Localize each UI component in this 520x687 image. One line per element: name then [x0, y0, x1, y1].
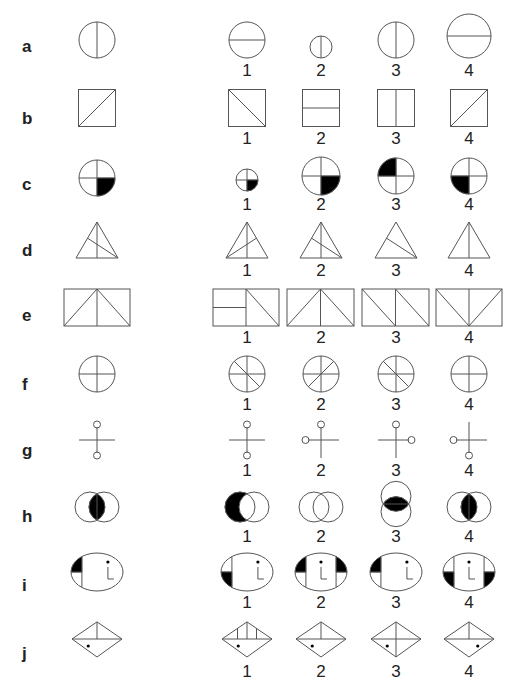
row-label: c: [22, 175, 31, 194]
option-number: 2: [316, 129, 325, 148]
option-number: 1: [242, 195, 251, 214]
option-i-2[interactable]: 2: [295, 553, 362, 612]
option-d-3[interactable]: 3: [375, 222, 417, 280]
puzzle-row-f: f1234: [22, 356, 487, 414]
stimulus-figure-a: [79, 22, 115, 58]
option-g-3[interactable]: 3: [378, 421, 415, 480]
option-number: 3: [391, 195, 400, 214]
option-b-2[interactable]: 2: [303, 90, 340, 149]
puzzle-row-d: d1234: [22, 222, 490, 280]
stimulus-figure-d: [76, 222, 118, 258]
option-b-1[interactable]: 1: [229, 90, 266, 149]
option-e-2[interactable]: 2: [287, 289, 354, 347]
option-number: 3: [391, 461, 400, 480]
option-c-4[interactable]: 4: [451, 158, 487, 214]
option-c-3[interactable]: 3: [378, 158, 414, 214]
option-g-1[interactable]: 1: [229, 421, 265, 480]
row-label: g: [22, 441, 32, 460]
option-number: 3: [391, 395, 400, 414]
option-h-1[interactable]: 1: [225, 492, 269, 546]
option-j-1[interactable]: 1: [222, 622, 272, 681]
option-a-2[interactable]: 2: [310, 36, 332, 80]
row-label: e: [22, 306, 31, 325]
option-number: 2: [316, 593, 325, 612]
option-f-4[interactable]: 4: [451, 356, 487, 414]
option-number: 4: [464, 461, 473, 480]
option-number: 4: [464, 61, 473, 80]
option-c-1[interactable]: 1: [236, 169, 258, 214]
row-label: d: [22, 241, 32, 260]
option-number: 1: [242, 328, 251, 347]
stimulus-figure-i: [71, 553, 123, 591]
option-number: 1: [242, 261, 251, 280]
option-number: 4: [464, 527, 473, 546]
row-label: h: [22, 507, 32, 526]
option-j-4[interactable]: 4: [444, 622, 494, 681]
option-b-3[interactable]: 3: [378, 90, 415, 149]
option-f-2[interactable]: 2: [303, 356, 339, 414]
option-number: 4: [464, 593, 473, 612]
stimulus-figure-b: [79, 90, 116, 127]
option-number: 3: [391, 328, 400, 347]
option-number: 1: [242, 395, 251, 414]
option-number: 1: [242, 61, 251, 80]
option-number: 3: [391, 61, 400, 80]
option-number: 2: [316, 61, 325, 80]
option-d-4[interactable]: 4: [448, 222, 490, 280]
option-e-4[interactable]: 4: [436, 289, 502, 347]
option-c-2[interactable]: 2: [302, 157, 340, 214]
puzzle-row-c: c1234: [22, 157, 487, 214]
option-number: 4: [464, 395, 473, 414]
option-e-1[interactable]: 1: [213, 289, 279, 347]
option-number: 1: [242, 662, 251, 681]
option-number: 3: [391, 593, 400, 612]
option-h-4[interactable]: 4: [447, 492, 491, 546]
puzzle-row-g: g1234: [22, 421, 487, 480]
option-number: 2: [316, 527, 325, 546]
option-g-4[interactable]: 4: [450, 422, 487, 480]
option-i-4[interactable]: 4: [443, 553, 510, 612]
option-number: 2: [316, 395, 325, 414]
option-number: 1: [242, 129, 251, 148]
option-i-3[interactable]: 3: [370, 553, 422, 612]
option-number: 4: [464, 662, 473, 681]
stimulus-figure-f: [79, 356, 115, 392]
option-number: 2: [316, 195, 325, 214]
option-f-1[interactable]: 1: [229, 356, 265, 414]
option-a-1[interactable]: 1: [229, 22, 265, 80]
puzzle-row-j: j1234: [21, 622, 494, 681]
option-h-2[interactable]: 2: [299, 492, 343, 546]
option-number: 3: [391, 261, 400, 280]
option-j-3[interactable]: 3: [371, 622, 421, 681]
option-j-2[interactable]: 2: [296, 622, 346, 681]
option-g-2[interactable]: 2: [302, 421, 339, 480]
option-number: 2: [316, 328, 325, 347]
option-number: 3: [391, 527, 400, 546]
option-d-2[interactable]: 2: [300, 222, 342, 280]
option-number: 2: [316, 261, 325, 280]
row-label: a: [22, 37, 32, 56]
stimulus-figure-g: [79, 421, 115, 459]
puzzle-row-h: h1234: [22, 481, 491, 546]
stimulus-figure-e: [64, 289, 130, 326]
puzzle-sheet: a1234b1234c1234d1234e1234f1234g1234h1234…: [0, 0, 520, 687]
option-number: 1: [242, 593, 251, 612]
option-b-4[interactable]: 4: [451, 90, 488, 149]
row-label: j: [21, 644, 27, 663]
option-a-4[interactable]: 4: [447, 14, 491, 80]
option-h-3[interactable]: 3: [381, 481, 411, 546]
puzzle-row-i: i1234: [22, 553, 510, 612]
option-i-1[interactable]: 1: [221, 553, 273, 612]
option-number: 4: [464, 328, 473, 347]
option-a-3[interactable]: 3: [378, 22, 414, 80]
option-number: 4: [464, 261, 473, 280]
option-f-3[interactable]: 3: [378, 356, 414, 414]
option-number: 3: [391, 129, 400, 148]
row-label: i: [22, 576, 27, 595]
option-e-3[interactable]: 3: [362, 289, 429, 347]
row-label: b: [22, 109, 32, 128]
option-number: 4: [464, 195, 473, 214]
stimulus-figure-h: [75, 492, 119, 522]
option-number: 2: [316, 662, 325, 681]
option-d-1[interactable]: 1: [226, 222, 268, 280]
